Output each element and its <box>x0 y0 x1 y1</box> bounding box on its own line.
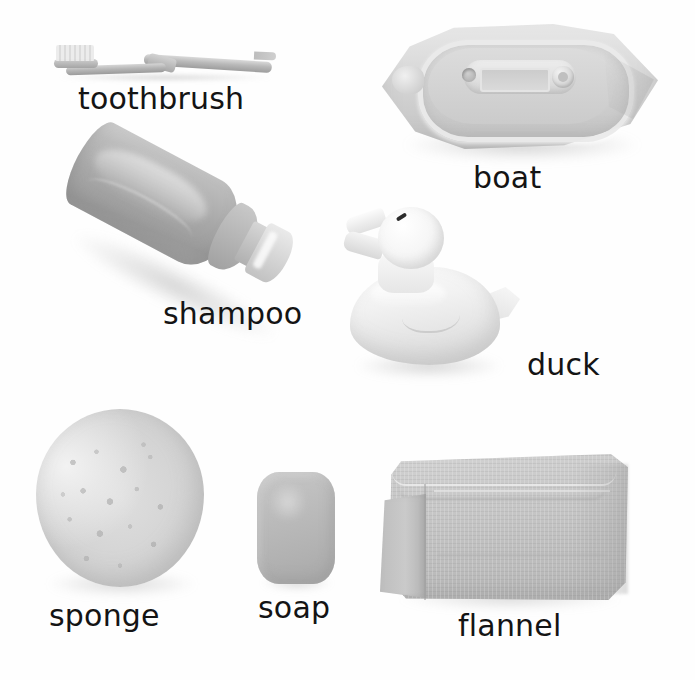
label-duck: duck <box>527 350 600 380</box>
sponge-icon[interactable] <box>28 405 218 595</box>
toothbrush-shadow <box>58 74 273 81</box>
toothbrush-bristles <box>56 45 94 61</box>
label-sponge: sponge <box>49 601 160 631</box>
label-boat: boat <box>473 163 541 193</box>
toothbrush-handle-tip <box>254 51 276 60</box>
label-soap: soap <box>258 593 330 623</box>
label-toothbrush: toothbrush <box>78 84 244 114</box>
toothbrush-icon[interactable] <box>48 40 270 86</box>
label-shampoo: shampoo <box>163 299 302 329</box>
soap-bar-icon[interactable] <box>253 470 343 595</box>
rubber-duck-icon[interactable] <box>340 205 540 380</box>
duck-head <box>378 207 444 269</box>
flannel-towel-icon[interactable] <box>378 450 638 610</box>
boat-bow-bump <box>392 66 424 94</box>
boat-icon[interactable] <box>376 18 664 163</box>
boat-knob-center <box>558 72 568 82</box>
duck-wing-line <box>402 297 460 333</box>
flannel-left-edge <box>380 494 426 598</box>
sponge-pores-texture <box>36 409 204 587</box>
soap-highlight <box>269 482 307 522</box>
flannel-left-edge-line <box>424 484 426 600</box>
picture-vocabulary-page: toothbrush boat shampoo <box>0 0 695 680</box>
flannel-right-shading <box>574 464 628 594</box>
boat-hatch <box>480 68 550 92</box>
sponge-body <box>36 409 204 587</box>
label-flannel: flannel <box>458 611 562 641</box>
boat-drain-hole <box>462 68 476 82</box>
